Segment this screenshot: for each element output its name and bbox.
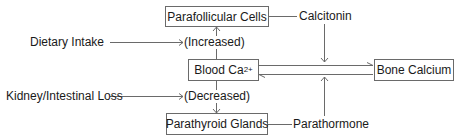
- node-parathyroid-glands: Parathyroid Glands: [166, 113, 268, 135]
- node-parafollicular-cells: Parafollicular Cells: [165, 6, 269, 27]
- node-bone-calcium: Bone Calcium: [374, 59, 454, 81]
- label-decreased: (Decreased): [184, 89, 250, 103]
- calcium-regulation-diagram: Parafollicular Cells Blood Ca2+ Bone Cal…: [0, 0, 461, 139]
- node-label: Parafollicular Cells: [167, 10, 266, 24]
- node-label: Bone Calcium: [377, 63, 452, 77]
- node-label: Parathyroid Glands: [166, 117, 269, 131]
- label-calcitonin: Calcitonin: [299, 9, 352, 23]
- label-parathormone: Parathormone: [293, 117, 369, 131]
- label-increased: (Increased): [184, 35, 245, 49]
- node-label: Blood Ca: [194, 63, 243, 77]
- label-dietary-intake: Dietary Intake: [30, 35, 104, 49]
- label-kidney-intestinal-loss: Kidney/Intestinal Loss: [6, 89, 123, 103]
- node-blood-calcium: Blood Ca2+: [188, 59, 259, 81]
